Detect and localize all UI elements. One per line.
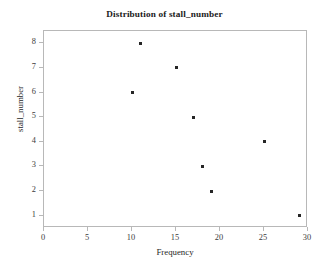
data-point [210, 190, 213, 193]
y-axis-tick-mark [39, 165, 43, 166]
plot-area [43, 30, 307, 227]
data-point [298, 214, 301, 217]
y-axis-tick-label: 1 [14, 209, 36, 221]
y-axis-tick-label: 8 [14, 36, 36, 48]
scatter-plot-figure: Distribution of stall_number Frequency s… [0, 0, 329, 271]
y-axis-tick-label: 7 [14, 61, 36, 73]
x-axis-tick-mark [87, 227, 88, 231]
chart-title: Distribution of stall_number [0, 9, 329, 19]
y-axis-tick-mark [39, 67, 43, 68]
x-axis-tick-label: 30 [292, 233, 322, 242]
y-axis-tick-label: 2 [14, 184, 36, 196]
data-point [263, 140, 266, 143]
y-axis-tick-label: 5 [14, 110, 36, 122]
x-axis-tick-mark [263, 227, 264, 231]
y-axis-tick-mark [39, 42, 43, 43]
y-axis-tick-label: 6 [14, 86, 36, 98]
y-axis-tick-mark [39, 141, 43, 142]
x-axis-tick-label: 0 [28, 233, 58, 242]
y-axis-tick-label: 3 [14, 159, 36, 171]
x-axis-tick-mark [43, 227, 44, 231]
x-axis-tick-label: 20 [204, 233, 234, 242]
x-axis-tick-mark [219, 227, 220, 231]
data-point [201, 165, 204, 168]
x-axis-tick-label: 10 [116, 233, 146, 242]
y-axis-tick-mark [39, 190, 43, 191]
y-axis-tick-mark [39, 215, 43, 216]
data-point [131, 91, 134, 94]
y-axis-tick-mark [39, 116, 43, 117]
x-axis-tick-mark [307, 227, 308, 231]
y-axis-tick-mark [39, 92, 43, 93]
data-point [192, 116, 195, 119]
x-axis-tick-label: 25 [248, 233, 278, 242]
x-axis-tick-label: 5 [72, 233, 102, 242]
x-axis-tick-label: 15 [160, 233, 190, 242]
y-axis-tick-label: 4 [14, 135, 36, 147]
x-axis-tick-mark [131, 227, 132, 231]
data-point [175, 66, 178, 69]
x-axis-tick-mark [175, 227, 176, 231]
x-axis-title: Frequency [43, 247, 307, 257]
data-point [139, 42, 142, 45]
